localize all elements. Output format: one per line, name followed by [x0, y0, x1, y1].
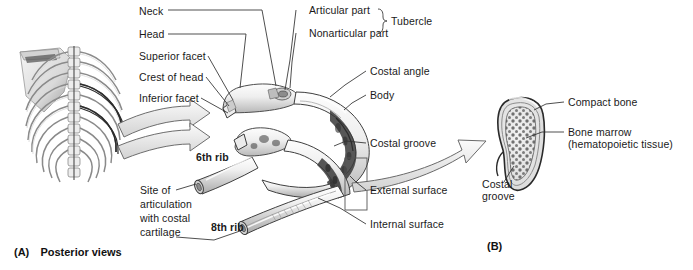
label-tubercle: Tubercle: [391, 16, 432, 28]
label-crest-of-head: Crest of head: [139, 72, 203, 84]
label-compact-bone: Compact bone: [568, 97, 638, 109]
label-articular-part: Articular part: [309, 5, 370, 17]
label-external-surface: External surface: [370, 185, 447, 197]
panel-a-label: (A): [14, 246, 29, 258]
label-inferior-facet: Inferior facet: [139, 93, 199, 105]
eighth-rib-illustration: [234, 128, 350, 236]
leader-costal-angle: [330, 71, 366, 97]
leader-superior-facet: [208, 56, 233, 100]
panel-a-caption: (A) Posterior views: [14, 246, 122, 258]
label-costal-groove-rib: Costal groove: [370, 138, 436, 150]
label-bone-marrow: Bone marrow (hematopoietic tissue): [568, 127, 673, 150]
rib-cross-section-illustration: [497, 98, 545, 191]
label-eighth-rib: 8th rib: [211, 222, 244, 234]
label-costal-groove-xsec: Costal groove: [482, 179, 515, 202]
label-sixth-rib: 6th rib: [196, 152, 229, 164]
label-head: Head: [139, 29, 165, 41]
panel-a-text: Posterior views: [40, 246, 121, 258]
label-site-of-articulation: Site of articulation with costal cartila…: [140, 183, 192, 239]
panel-b-caption: (B): [487, 240, 502, 252]
rib-anatomy-figure: Neck Head Superior facet Crest of head I…: [0, 0, 693, 270]
leader-body: [344, 95, 366, 110]
leader-crest-of-head: [206, 77, 229, 106]
label-superior-facet: Superior facet: [139, 51, 206, 63]
label-internal-surface: Internal surface: [370, 219, 444, 231]
panel-b-label: (B): [487, 240, 502, 252]
label-neck: Neck: [139, 6, 163, 18]
label-body: Body: [370, 90, 394, 102]
label-nonarticular-part: Nonarticular part: [309, 28, 388, 40]
label-costal-angle: Costal angle: [370, 66, 430, 78]
posterior-ribcage-illustration: [20, 46, 130, 190]
leader-nonarticular-part: [290, 33, 296, 88]
